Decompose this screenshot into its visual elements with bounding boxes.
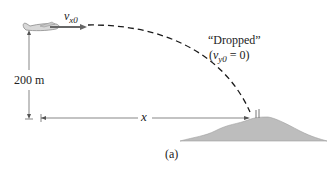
hill <box>180 117 327 141</box>
velocity-subscript: x0 <box>69 15 78 25</box>
equals-zero: = 0) <box>227 48 250 62</box>
figure-caption: (a) <box>165 147 178 162</box>
initial-condition-label: (vy0 = 0) <box>209 48 250 64</box>
dropped-label: “Dropped” <box>208 33 261 48</box>
velocity-label: vx0 <box>64 9 78 25</box>
height-label: 200 m <box>12 73 46 88</box>
vy-subscript: y0 <box>218 54 227 64</box>
people-icon <box>256 109 259 118</box>
distance-label: x <box>141 109 147 125</box>
